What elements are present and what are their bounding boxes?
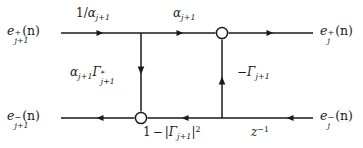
port-label-top-left: e+j+1(n) (7, 25, 40, 38)
gain-cross-down-symbol-alpha: α (70, 65, 78, 79)
gain-top-right-symbol: α (173, 6, 181, 20)
gain-bottom-left-symbol: Γ (169, 125, 177, 139)
gain-cross-up-sign: − (237, 65, 247, 79)
summing-node-top-right (216, 27, 227, 38)
port-bottom-right-argument: (n) (335, 108, 353, 123)
gain-label-bottom-left: 1−|Γj+1|2 (143, 126, 201, 138)
gain-bottom-left-bar-close: | (191, 125, 195, 139)
gain-label-top-left: 1/αj+1 (76, 7, 110, 19)
gain-bottom-left-operator: − (151, 125, 165, 139)
gain-bottom-left-subscript: j+1 (177, 132, 191, 141)
gain-top-right-subscript: j+1 (181, 13, 195, 22)
cross-branch-down (138, 33, 145, 112)
gain-bottom-right-exponent: −1 (257, 125, 269, 134)
port-top-right-subscript: j (327, 37, 329, 45)
arrowhead-cross-down (138, 67, 145, 75)
gain-cross-up-subscript: j+1 (255, 72, 269, 81)
arrowhead-bottom-middle (182, 115, 189, 121)
gain-label-bottom-right: z−1 (251, 126, 269, 138)
summing-node-bottom-left (135, 112, 146, 123)
gain-label-cross-down: αj+1Γ*j+1 (70, 66, 108, 78)
cross-branch-up (219, 40, 226, 119)
arrowhead-bottom-right (287, 115, 294, 121)
gain-label-cross-up: −Γj+1 (237, 66, 270, 78)
arrowhead-top-right (267, 30, 274, 36)
port-bottom-right-subscript: j (327, 122, 329, 130)
port-bottom-left-subscript: j+1 (14, 122, 28, 130)
port-label-bottom-right: e−j(n) (320, 110, 353, 123)
gain-bottom-left-exponent: 2 (196, 125, 201, 134)
signal-flow-diagram: e+j+1(n) e+j(n) e−j+1(n) e−j(n) 1/αj+1 α… (0, 0, 363, 148)
gain-cross-down-subscript-gamma: j+1 (101, 78, 115, 86)
gain-top-left-symbol: α (88, 6, 96, 20)
gain-top-left-subscript: j+1 (96, 13, 110, 22)
arrowhead-top-left (97, 30, 104, 36)
arrowhead-bottom-left (97, 115, 104, 121)
gain-cross-down-symbol-gamma: Γ (93, 65, 101, 79)
port-label-top-right: e+j(n) (320, 25, 353, 38)
port-label-bottom-left: e−j+1(n) (7, 110, 40, 123)
gain-bottom-left-lead: 1 (143, 125, 151, 139)
arrowhead-cross-up (219, 77, 226, 85)
gain-cross-down-subscript-alpha: j+1 (78, 72, 92, 81)
gain-label-top-right: αj+1 (173, 7, 196, 19)
gain-top-left-numerator: 1/ (76, 6, 88, 20)
port-top-left-subscript: j+1 (14, 37, 28, 45)
arrowhead-top-middle (177, 30, 184, 36)
port-top-right-argument: (n) (335, 23, 353, 38)
